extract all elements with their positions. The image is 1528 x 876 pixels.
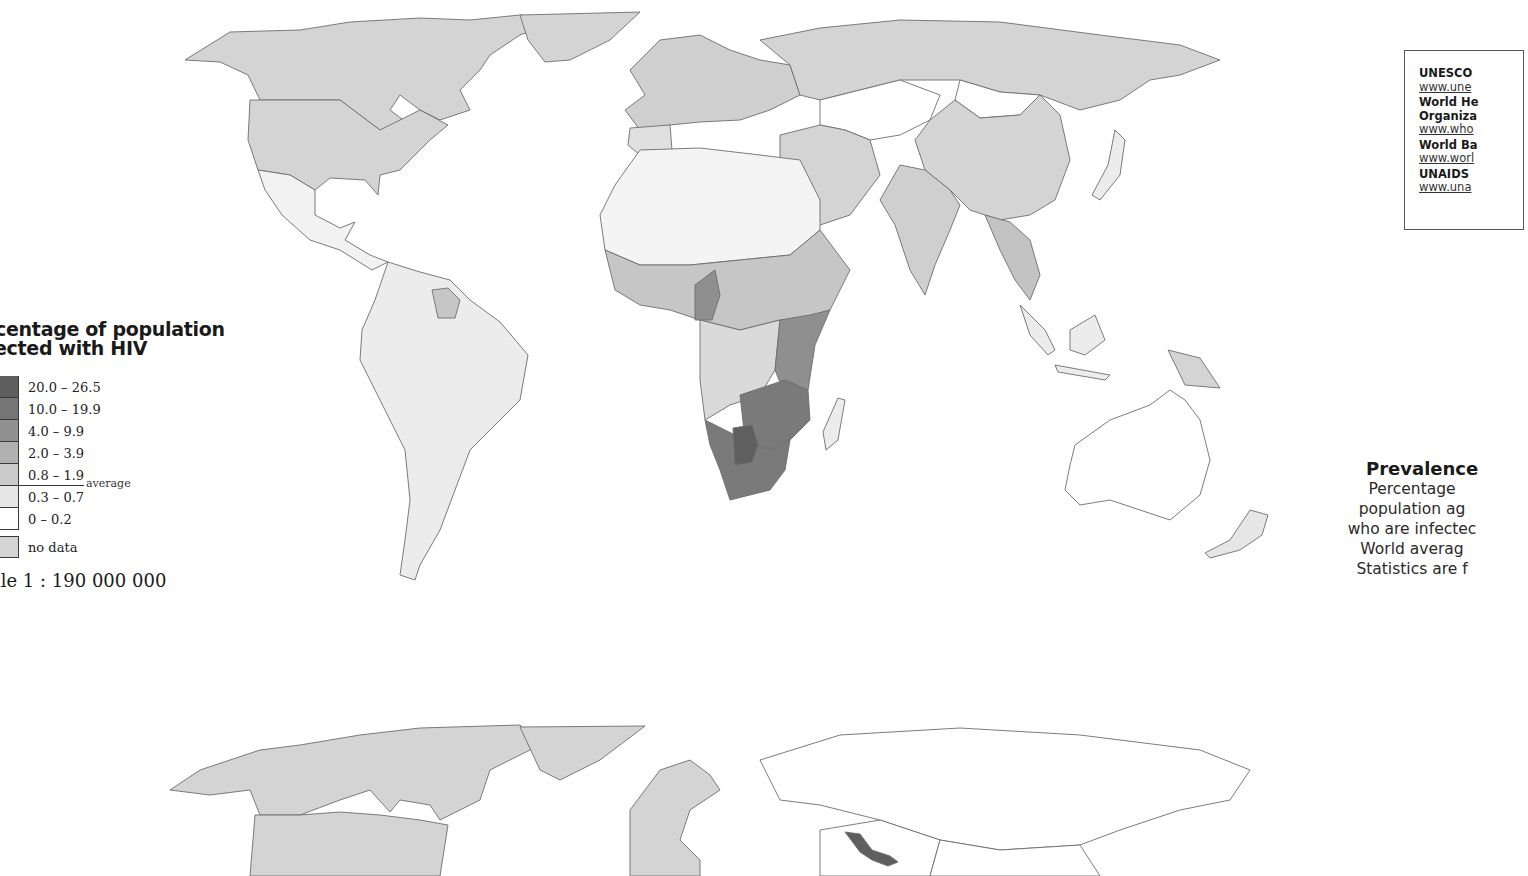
source-name: World He: [1419, 96, 1523, 110]
region-madagascar: [823, 398, 845, 450]
source-link[interactable]: www.who: [1419, 123, 1523, 137]
region-mexico-central-america: [258, 170, 388, 270]
legend-class-label: 20.0 – 26.5: [28, 380, 101, 395]
legend-class-label: 10.0 – 19.9: [28, 402, 101, 417]
prevalence-line: who are infectec: [1224, 519, 1528, 539]
legend-no-data-label: no data: [28, 540, 77, 555]
source-link[interactable]: www.una: [1419, 181, 1523, 195]
region-greenland: [520, 12, 640, 62]
legend-swatch: [0, 420, 19, 442]
legend-class-row: 0 – 0.2: [0, 508, 246, 530]
region-japan: [1092, 130, 1125, 200]
source-name-cont: Organiza: [1419, 110, 1523, 124]
legend-swatch: [0, 442, 19, 464]
legend-class-row: 10.0 – 19.9: [0, 398, 246, 420]
legend-class-row: 2.0 – 3.9: [0, 442, 246, 464]
prevalence-line: population ag: [1224, 499, 1528, 519]
region-canada-alaska: [185, 15, 560, 130]
average-marker-line: [0, 485, 84, 486]
source-name: UNAIDS: [1419, 168, 1523, 182]
legend-class-label: 4.0 – 9.9: [28, 424, 84, 439]
legend-swatch-no-data: [0, 536, 19, 558]
region-papua: [1168, 350, 1220, 388]
region-australia: [1065, 390, 1210, 520]
legend-class-row: 20.0 – 26.5: [0, 376, 246, 398]
region-indonesia: [1020, 305, 1110, 380]
bottom-map: [170, 725, 1250, 876]
legend-class-label: 0 – 0.2: [28, 512, 72, 527]
legend-no-data-row: no data: [0, 536, 246, 558]
prevalence-line: Statistics are f: [1224, 559, 1528, 579]
source-link[interactable]: www.worl: [1419, 152, 1523, 166]
legend-class-label: 2.0 – 3.9: [28, 446, 84, 461]
bottom-region-europe: [630, 760, 720, 876]
bottom-region-canada-alaska: [170, 725, 540, 820]
legend-swatch: [0, 376, 19, 398]
legend-class-row: 4.0 – 9.9: [0, 420, 246, 442]
bottom-region-greenland: [520, 726, 645, 780]
prevalence-line: Percentage: [1224, 479, 1528, 499]
region-north-africa: [600, 148, 820, 265]
legend-swatch: [0, 464, 19, 486]
average-label: average: [86, 477, 131, 490]
bottom-region-usa: [250, 812, 448, 876]
source-name: World Ba: [1419, 139, 1523, 153]
prevalence-title: Prevalence: [1360, 458, 1528, 479]
legend-title: rcentage of population fected with HIV: [0, 320, 246, 358]
legend-classes: 20.0 – 26.5 10.0 – 19.9 4.0 – 9.9 2.0 – …: [0, 376, 246, 558]
source-link[interactable]: www.une: [1419, 81, 1523, 95]
legend-title-line2: fected with HIV: [0, 339, 246, 358]
map-scale: ale 1 : 190 000 000: [0, 570, 246, 591]
legend: rcentage of population fected with HIV 2…: [0, 320, 246, 591]
sources-box: UNESCO www.une World He Organiza www.who…: [1404, 50, 1524, 230]
prevalence-line: World averag: [1224, 539, 1528, 559]
source-name: UNESCO: [1419, 67, 1523, 81]
prevalence-description: Prevalence Percentage population ag who …: [1300, 458, 1528, 579]
legend-swatch: [0, 486, 19, 508]
legend-swatch: [0, 508, 19, 530]
top-map: [185, 12, 1268, 580]
legend-swatch: [0, 398, 19, 420]
legend-class-label: 0.8 – 1.9: [28, 468, 84, 483]
legend-class-label: 0.3 – 0.7: [28, 490, 84, 505]
region-se-asia: [985, 215, 1040, 300]
